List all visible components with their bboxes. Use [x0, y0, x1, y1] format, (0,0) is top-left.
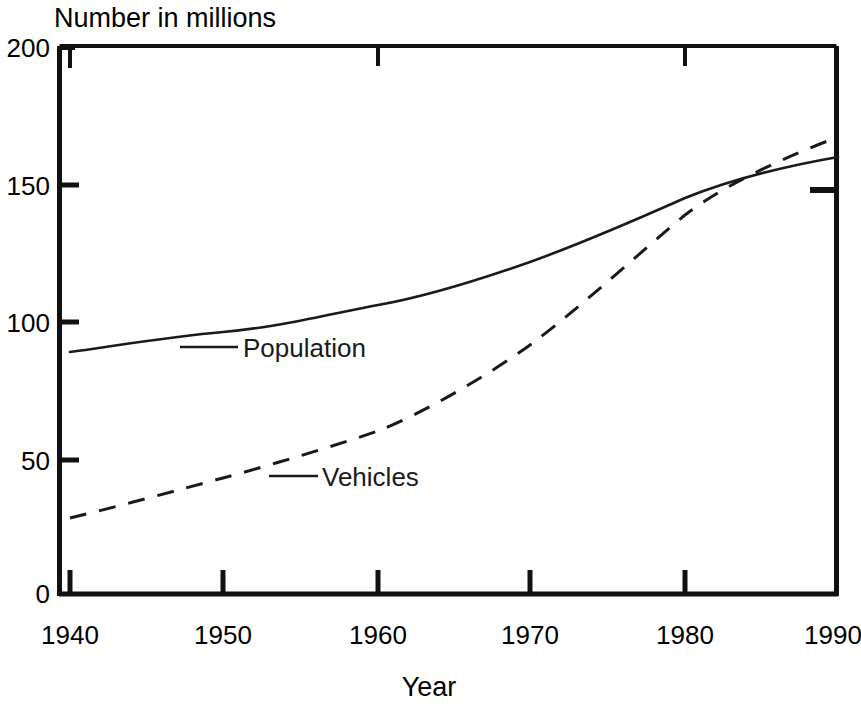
x-tick-label-1990: 1990 — [804, 620, 861, 650]
series-label-vehicles: Vehicles — [322, 462, 419, 492]
y-tick-label-100: 100 — [7, 308, 50, 338]
series-line-population — [70, 157, 838, 352]
x-tick-label-1960: 1960 — [349, 620, 407, 650]
series-line-vehicles — [70, 137, 838, 518]
x-axis-title: Year — [402, 672, 457, 702]
chart-title: Number in millions — [54, 3, 276, 33]
y-tick-label-200: 200 — [7, 33, 50, 63]
y-tick-label-0: 0 — [36, 579, 50, 609]
y-tick-label-150: 150 — [7, 171, 50, 201]
x-tick-label-1950: 1950 — [194, 620, 252, 650]
x-tick-label-1970: 1970 — [501, 620, 559, 650]
chart-page: Number in millions Year 200 150 100 50 0… — [0, 0, 861, 707]
line-chart: Number in millions Year 200 150 100 50 0… — [0, 0, 861, 707]
x-tick-label-1980: 1980 — [656, 620, 714, 650]
y-tick-label-50: 50 — [21, 446, 50, 476]
series-label-population: Population — [243, 333, 366, 363]
x-tick-label-1940: 1940 — [41, 620, 99, 650]
